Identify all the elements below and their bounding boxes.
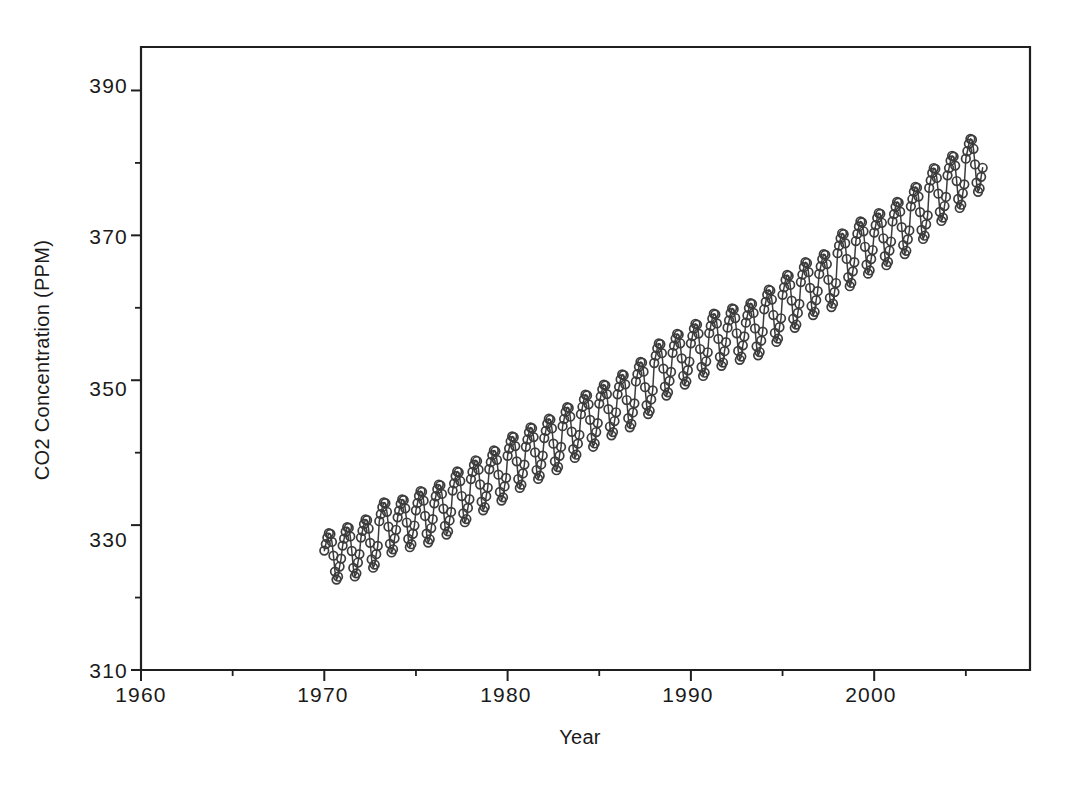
chart-canvas: 390 370 350 330 310 1960 1970 1980 1990 …: [0, 0, 1076, 787]
y-axis-title: CO2 Concentration (PPM): [31, 240, 53, 480]
y-tick-label-350: 350: [89, 377, 128, 400]
y-tick-label-310: 310: [89, 659, 128, 682]
co2-scatter-figure: 390 370 350 330 310 1960 1970 1980 1990 …: [0, 0, 1076, 787]
x-tick-label-1980: 1980: [480, 683, 532, 706]
y-tick-label-390: 390: [89, 74, 128, 97]
plot-frame: [141, 47, 1030, 670]
y-axis-tick-labels: 390 370 350 330 310: [89, 74, 128, 682]
x-axis-ticks: [141, 670, 966, 681]
x-tick-label-1970: 1970: [297, 683, 349, 706]
y-axis-ticks: [131, 90, 141, 670]
x-axis-title: Year: [559, 726, 601, 748]
x-tick-label-2000: 2000: [845, 683, 897, 706]
data-markers: [320, 135, 987, 584]
y-tick-label-370: 370: [89, 225, 128, 248]
x-tick-label-1990: 1990: [662, 683, 714, 706]
x-axis-tick-labels: 1960 1970 1980 1990 2000: [115, 683, 897, 706]
x-tick-label-1960: 1960: [115, 683, 167, 706]
y-tick-label-330: 330: [89, 528, 128, 551]
